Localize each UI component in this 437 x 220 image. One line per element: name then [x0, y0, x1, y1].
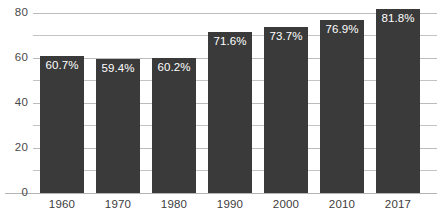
axis-baseline [5, 193, 437, 194]
x-tick-label-2000: 2000 [264, 199, 308, 211]
x-tick-label-1990: 1990 [208, 199, 252, 211]
y-tick-label-40: 40 [0, 97, 28, 109]
x-tick-label-2017: 2017 [376, 199, 420, 211]
bar-value-1960: 60.7% [40, 60, 84, 72]
bar-1980: 60.2% [152, 58, 196, 193]
bar-2000: 73.7% [264, 27, 308, 193]
bar-value-2017: 81.8% [376, 13, 420, 25]
bar-1990: 71.6% [208, 32, 252, 193]
bar-value-2010: 76.9% [320, 24, 364, 36]
bar-1970: 59.4% [96, 59, 140, 193]
x-tick-label-2010: 2010 [320, 199, 364, 211]
bar-2017: 81.8% [376, 9, 420, 193]
bar-1960: 60.7% [40, 56, 84, 193]
y-tick-label-0: 0 [0, 187, 28, 199]
x-tick-label-1960: 1960 [40, 199, 84, 211]
y-tick-label-80: 80 [0, 7, 28, 19]
y-tick-label-60: 60 [0, 52, 28, 64]
bar-value-1990: 71.6% [208, 36, 252, 48]
x-tick-label-1970: 1970 [96, 199, 140, 211]
bar-2010: 76.9% [320, 20, 364, 193]
bar-value-1970: 59.4% [96, 63, 140, 75]
y-tick-label-20: 20 [0, 142, 28, 154]
bar-value-1980: 60.2% [152, 62, 196, 74]
bar-value-2000: 73.7% [264, 31, 308, 43]
x-tick-label-1980: 1980 [152, 199, 196, 211]
plot-area: 80 60 40 20 0 60.7% 59.4% 60.2% 71.6% 73… [0, 0, 437, 220]
bar-chart: 80 60 40 20 0 60.7% 59.4% 60.2% 71.6% 73… [0, 0, 437, 220]
